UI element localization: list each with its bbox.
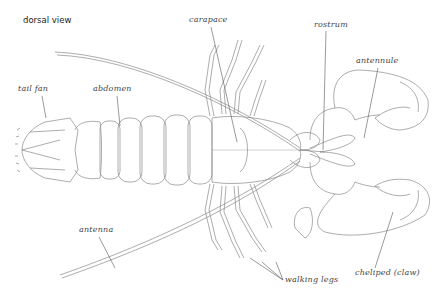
walking-legs-bottom [205, 184, 272, 258]
view-title: dorsal view [23, 15, 71, 25]
label-abdomen: abdomen [93, 84, 132, 93]
walking-legs-top [205, 40, 266, 116]
cheliped-lower [294, 162, 429, 238]
tail-fan [15, 118, 78, 182]
lobster-illustration [0, 0, 440, 304]
antenna-lines [55, 52, 300, 278]
label-cheliped: cheliped (claw) [355, 268, 420, 277]
carapace-shape [212, 116, 301, 183]
label-carapace: carapace [189, 15, 228, 24]
label-rostrum: rostrum [314, 20, 348, 29]
label-tail-fan: tail fan [18, 84, 48, 93]
label-walking-legs: walking legs [285, 275, 338, 284]
cheliped-upper [310, 70, 428, 140]
abdomen-segments [75, 115, 212, 185]
label-antenna: antenna [79, 225, 113, 234]
lobster-dorsal-diagram: dorsal view tail fan abdomen carapace ro… [0, 0, 440, 304]
label-antennule: antennule [356, 56, 398, 65]
